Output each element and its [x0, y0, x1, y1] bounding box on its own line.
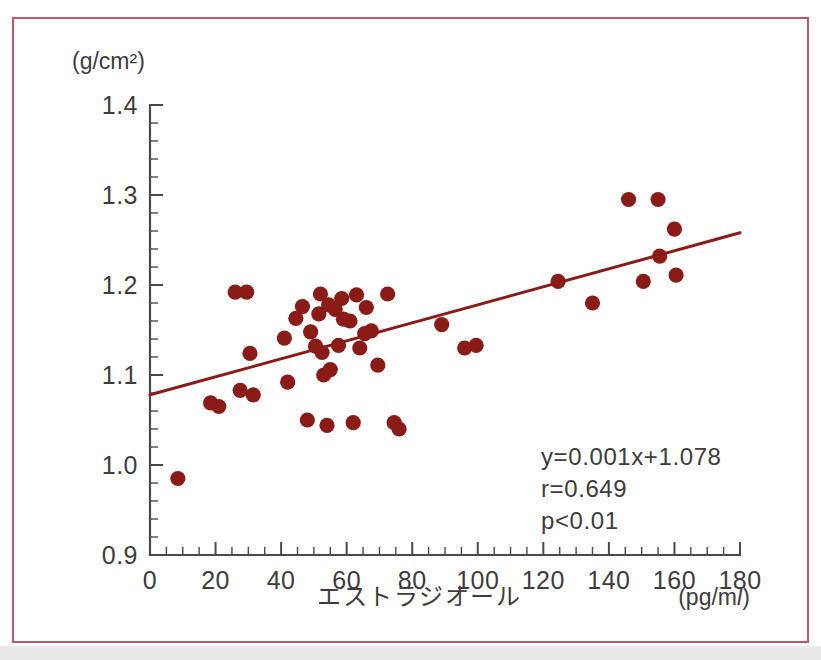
data-point	[585, 295, 600, 310]
data-point	[621, 192, 636, 207]
data-point	[667, 222, 682, 237]
y-axis-tick-label: 1.3	[102, 181, 138, 209]
y-axis-tick-label: 1.4	[102, 91, 138, 119]
data-point	[370, 358, 385, 373]
data-point	[636, 274, 651, 289]
y-axis-tick-labels: 0.91.01.11.21.31.4	[102, 91, 138, 569]
data-point	[342, 313, 357, 328]
figure-frame: 0.91.01.11.21.31.4 020406080100120140160…	[12, 17, 809, 643]
data-point	[239, 285, 254, 300]
data-point	[352, 340, 367, 355]
data-point	[349, 287, 364, 302]
data-point	[334, 291, 349, 306]
statistics-annotation: y=0.001x+1.078 r=0.649 p<0.01	[541, 443, 722, 534]
data-point	[295, 299, 310, 314]
data-point	[277, 331, 292, 346]
x-axis-tick-label: 40	[267, 566, 296, 594]
y-axis-tick-label: 0.9	[102, 541, 138, 569]
page-bottom-band	[0, 646, 821, 660]
data-point	[469, 338, 484, 353]
y-axis-unit-label: (g/cm²)	[72, 48, 145, 74]
data-point	[364, 323, 379, 338]
x-axis-tick-label: 20	[201, 566, 230, 594]
data-point	[380, 286, 395, 301]
y-axis-tick-label: 1.1	[102, 361, 138, 389]
x-axis-tick-label: 120	[522, 566, 565, 594]
x-axis-tick-label: 0	[143, 566, 157, 594]
y-axis-tick-label: 1.0	[102, 451, 138, 479]
data-point	[668, 268, 683, 283]
scatter-chart: 0.91.01.11.21.31.4 020406080100120140160…	[14, 19, 811, 645]
x-axis-unit-label: (pg/ml)	[678, 584, 750, 610]
chart-svg: 0.91.01.11.21.31.4 020406080100120140160…	[14, 19, 811, 645]
data-point	[246, 387, 261, 402]
data-point	[242, 346, 257, 361]
x-axis-title: エストラジオール	[317, 583, 521, 610]
data-point	[280, 375, 295, 390]
data-point	[650, 192, 665, 207]
data-point	[434, 317, 449, 332]
data-point	[211, 399, 226, 414]
data-point	[314, 345, 329, 360]
data-point	[319, 418, 334, 433]
data-point	[303, 324, 318, 339]
data-point	[323, 362, 338, 377]
data-point	[300, 412, 315, 427]
annotation-equation: y=0.001x+1.078	[541, 443, 722, 470]
regression-line	[150, 233, 740, 395]
data-point-group	[170, 192, 683, 486]
x-axis-tick-label: 140	[587, 566, 630, 594]
data-point	[346, 415, 361, 430]
data-point	[550, 274, 565, 289]
data-point	[170, 471, 185, 486]
annotation-pvalue: p<0.01	[541, 507, 619, 534]
data-point	[392, 421, 407, 436]
annotation-correlation: r=0.649	[541, 475, 627, 502]
data-point	[652, 249, 667, 264]
data-point	[359, 300, 374, 315]
figure-page: 0.91.01.11.21.31.4 020406080100120140160…	[0, 0, 821, 660]
data-point	[233, 383, 248, 398]
data-point	[331, 338, 346, 353]
y-axis-tick-label: 1.2	[102, 271, 138, 299]
